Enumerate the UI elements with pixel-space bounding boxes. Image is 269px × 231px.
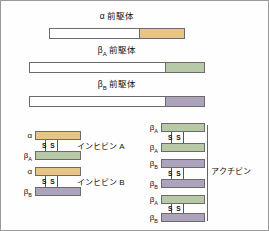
betaB-precursor-title-sub: B bbox=[103, 85, 107, 91]
activin-b-disulfide-link-right bbox=[183, 168, 184, 179]
inhibin-b-betaB-subunit bbox=[35, 187, 81, 196]
activin-ab-betaA-label-sub: A bbox=[154, 200, 158, 206]
activin-b-betaB2-subunit bbox=[161, 179, 205, 188]
betaA-precursor-title-sub: A bbox=[103, 51, 107, 57]
betaB-precursor-title-rest: 前駆体 bbox=[109, 79, 136, 89]
alpha-precursor-title: α 前駆体 bbox=[49, 11, 185, 25]
activin-a-betaA1-label-sub: A bbox=[154, 128, 158, 134]
inhibin-a-disulfide-label: S S bbox=[42, 142, 55, 149]
inhibin-b-disulfide-link-right bbox=[57, 176, 58, 187]
activin-a-disulfide-link-right bbox=[183, 132, 184, 143]
betaA-precursor-title: βA 前駆体 bbox=[29, 45, 205, 59]
activin-b-betaB1-label-sub: B bbox=[154, 164, 158, 170]
inhibin-b-alpha-label: α bbox=[15, 167, 32, 180]
inhibin-a-betaA-subunit bbox=[35, 151, 81, 160]
activin-b-betaB1-subunit bbox=[161, 159, 205, 168]
activin-ab-betaB-label: βB bbox=[137, 213, 158, 226]
alpha-precursor-title-rest: 前駆体 bbox=[107, 11, 134, 21]
alpha-precursor-title-main: α bbox=[100, 11, 105, 21]
activin-ab-betaB-subunit bbox=[161, 213, 205, 222]
activin-a-disulfide-label: S S bbox=[168, 134, 181, 141]
betaA-precursor-bar bbox=[29, 62, 205, 73]
activin-a-betaA2-label: βA bbox=[137, 143, 158, 156]
inhibin-a-betaA-label-sub: A bbox=[28, 156, 32, 162]
inhibin-b-betaB-label: βB bbox=[11, 187, 32, 200]
betaB-precursor-bar bbox=[29, 96, 205, 107]
inhibin-activin-diagram: α 前駆体 βA 前駆体 βB 前駆体 α S S βA インヒビン A α S bbox=[0, 0, 269, 231]
inhibin-a-name: インヒビン A bbox=[77, 142, 125, 152]
inhibin-b-betaB-label-sub: B bbox=[28, 192, 32, 198]
betaB-precursor-title: βB 前駆体 bbox=[29, 79, 205, 93]
activin-b-disulfide-label: S S bbox=[168, 170, 181, 177]
activin-group-brace bbox=[207, 125, 208, 221]
inhibin-a-betaA-label: βA bbox=[11, 151, 32, 164]
inhibin-a-alpha-label: α bbox=[15, 131, 32, 144]
inhibin-a-alpha-label-main: α bbox=[27, 131, 32, 140]
activin-name: アクチビン bbox=[211, 167, 251, 177]
activin-b-betaB1-label: βB bbox=[137, 159, 158, 172]
inhibin-a-disulfide-link-right bbox=[57, 140, 58, 151]
betaA-precursor-title-rest: 前駆体 bbox=[109, 45, 136, 55]
activin-ab-betaA-label: βA bbox=[137, 195, 158, 208]
activin-ab-betaA-subunit bbox=[161, 195, 205, 204]
inhibin-a-alpha-subunit bbox=[35, 131, 81, 140]
activin-a-betaA1-label: βA bbox=[137, 123, 158, 136]
activin-ab-betaB-label-sub: B bbox=[154, 218, 158, 224]
activin-a-betaA2-subunit bbox=[161, 143, 205, 152]
activin-a-betaA2-label-sub: A bbox=[154, 148, 158, 154]
betaB-mature-segment bbox=[165, 97, 204, 106]
alpha-propeptide-segment bbox=[50, 29, 139, 38]
alpha-precursor-bar bbox=[49, 28, 185, 39]
alpha-mature-segment bbox=[139, 29, 184, 38]
activin-ab-disulfide-label: S S bbox=[168, 205, 181, 212]
activin-a-betaA1-subunit bbox=[161, 123, 205, 132]
activin-b-betaB2-label-sub: B bbox=[154, 184, 158, 190]
betaA-propeptide-segment bbox=[30, 63, 165, 72]
betaB-propeptide-segment bbox=[30, 97, 165, 106]
activin-ab-disulfide-link-right bbox=[183, 204, 184, 213]
activin-b-betaB2-label: βB bbox=[137, 179, 158, 192]
inhibin-b-alpha-subunit bbox=[35, 167, 81, 176]
betaA-mature-segment bbox=[165, 63, 204, 72]
inhibin-b-disulfide-label: S S bbox=[42, 178, 55, 185]
inhibin-b-alpha-label-main: α bbox=[27, 167, 32, 176]
inhibin-b-name: インヒビン B bbox=[77, 178, 125, 188]
